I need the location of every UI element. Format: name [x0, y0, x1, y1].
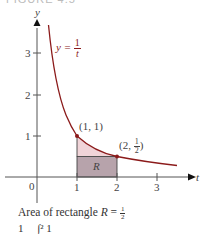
caption-fraction: 1 2	[120, 206, 126, 221]
point-1-1	[75, 134, 79, 138]
x-axis-arrow-icon	[188, 174, 196, 181]
curve-label-prefix: y =	[56, 41, 71, 53]
curve-label-fraction: 1 t	[74, 38, 81, 59]
caption-text: Area of rectangle	[18, 206, 98, 218]
y-axis-arrow-icon	[34, 19, 41, 26]
y-tick-label-1: 1	[25, 131, 31, 142]
fraction-denominator: t	[74, 49, 81, 59]
point-2-half	[115, 155, 119, 159]
y-tick-label-2: 2	[25, 90, 31, 101]
caption-var: R	[101, 206, 108, 218]
graph-canvas	[0, 0, 202, 205]
caption-equals: =	[111, 206, 118, 218]
x-tick-label-2: 2	[114, 182, 120, 193]
caption-line-2: 1 ∫² 1	[18, 222, 52, 234]
point-label-1-1: (1, 1)	[79, 121, 103, 132]
point-label-2-half: (2, 1 2 )	[119, 138, 143, 155]
point-label-suffix: )	[140, 139, 144, 151]
caption: Area of rectangle R = 1 2	[18, 206, 125, 221]
curve-label: y = 1 t	[56, 38, 81, 59]
origin-label: 0	[29, 181, 35, 192]
shaded-region	[77, 136, 117, 157]
x-tick-label-3: 3	[154, 182, 160, 193]
x-tick-label-1: 1	[74, 182, 80, 193]
point-label-prefix: (2,	[119, 139, 131, 151]
y-axis-label: y	[35, 7, 40, 18]
rectangle-label: R	[93, 161, 100, 172]
fraction-denominator: 2	[120, 214, 126, 221]
y-tick-label-3: 3	[25, 48, 31, 59]
x-axis-label: t	[196, 172, 199, 183]
